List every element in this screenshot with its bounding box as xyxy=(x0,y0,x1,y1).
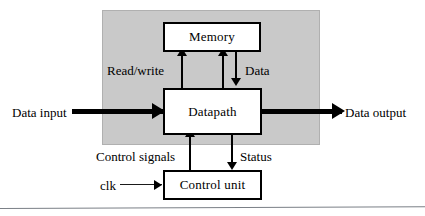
data-input-label: Data input xyxy=(12,106,67,119)
memory-block: Memory xyxy=(163,22,261,52)
diagram-canvas: Memory Datapath Control unit Read/write … xyxy=(0,0,425,216)
control-signals-connector-line xyxy=(189,135,191,172)
memory-read-connector-line xyxy=(222,54,224,88)
status-connector-line xyxy=(231,135,233,164)
data-input-connector-line xyxy=(72,109,164,114)
data-arrowhead-icon xyxy=(231,78,241,86)
control-signals-label: Control signals xyxy=(96,150,175,163)
bottom-divider xyxy=(0,206,425,209)
status-arrowhead-icon xyxy=(227,162,237,170)
clk-arrowhead-icon xyxy=(154,180,162,190)
data-label: Data xyxy=(245,64,270,77)
data-output-label: Data output xyxy=(345,106,406,119)
data-output-connector-line xyxy=(262,109,342,114)
read-write-connector-line xyxy=(181,54,183,88)
read-write-label: Read/write xyxy=(107,64,164,77)
data-output-arrowhead-icon xyxy=(332,103,345,119)
control-unit-block: Control unit xyxy=(163,170,262,200)
data-connector-line xyxy=(235,52,237,80)
status-label: Status xyxy=(240,150,272,163)
clk-label: clk xyxy=(100,179,116,192)
datapath-block: Datapath xyxy=(163,88,262,135)
